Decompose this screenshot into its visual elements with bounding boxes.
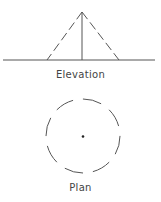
cone-left-edge <box>47 12 82 60</box>
elevation-plan-diagram <box>0 0 161 202</box>
cone-right-edge <box>82 12 119 60</box>
apex-point <box>82 135 85 138</box>
elevation-view <box>3 12 155 60</box>
plan-label: Plan <box>0 182 161 193</box>
plan-view <box>46 99 120 173</box>
elevation-label: Elevation <box>0 69 161 80</box>
